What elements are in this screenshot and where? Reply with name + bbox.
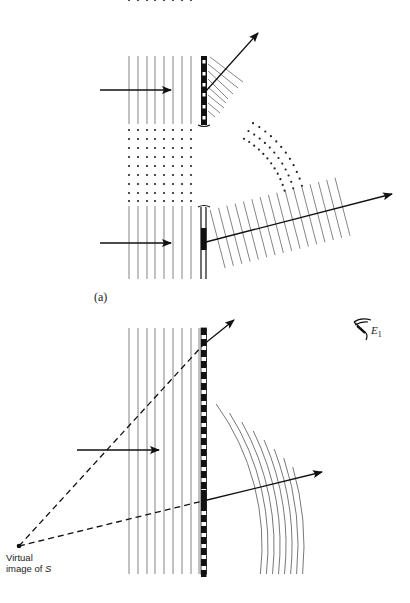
lower-grating <box>198 206 210 280</box>
virtual-image-label: Virtual image of S <box>6 552 51 574</box>
incident-wavefronts-b <box>129 328 199 574</box>
panel-b <box>17 319 371 577</box>
hologram-grating-b <box>201 328 207 577</box>
diffracted-ray-arrow-lower <box>206 194 392 242</box>
virtual-ray-dashed-upper <box>19 345 203 546</box>
eye-icon <box>354 319 371 340</box>
virtual-source-point <box>17 544 22 549</box>
panel-a <box>100 0 392 279</box>
virtual-label-line1: Virtual <box>6 552 51 563</box>
panel-a-label: (a) <box>94 292 107 303</box>
virtual-ray-dashed-lower <box>19 501 203 546</box>
diffracted-ray-arrow-b-lower <box>203 472 322 501</box>
wave-dot-lattice <box>128 0 192 202</box>
virtual-label-line2: image of S <box>6 563 51 574</box>
diffracted-ray-arrow-upper <box>206 33 258 91</box>
diffracted-ray-arrow-b-upper <box>203 320 234 345</box>
diffracted-spherical-wavefronts <box>216 404 304 574</box>
diffracted-wavefronts-upper <box>208 57 243 117</box>
diffracted-dot-band <box>243 122 303 192</box>
hologram-diffraction-diagram <box>0 0 410 603</box>
eye-label: E1 <box>371 325 382 340</box>
upper-grating <box>198 56 210 127</box>
